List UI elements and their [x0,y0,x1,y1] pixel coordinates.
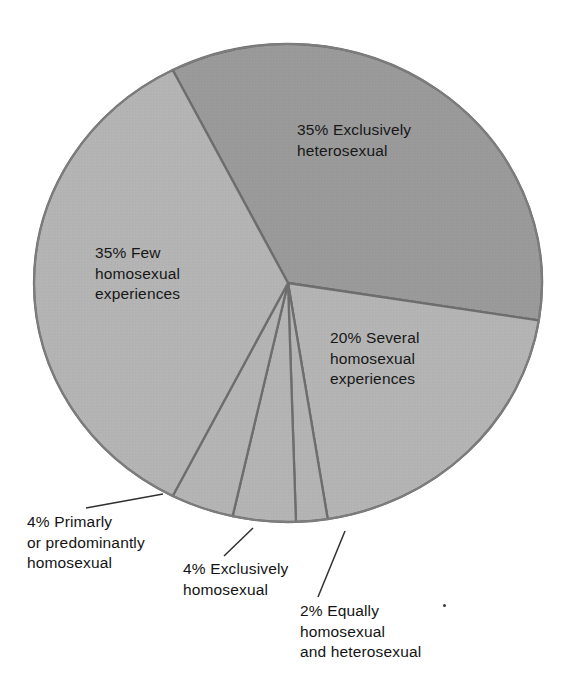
slice-label-exclusively-heterosexual: 35% Exclusively heterosexual [297,120,487,161]
pie-chart-figure: 35% Exclusively heterosexual 35% Few hom… [0,0,570,676]
scan-artifact-speck [443,604,446,607]
leader-line-primarly [86,494,163,508]
slice-label-exclusively-homosexual: 4% Exclusively homosexual [183,559,373,600]
slice-label-equally-homosexual-and-heterosexual: 2% Equally homosexual and heterosexual [300,601,530,663]
slice-label-several-homosexual-experiences: 20% Several homosexual experiences [330,328,510,390]
slice-label-few-homosexual-experiences: 35% Few homosexual experiences [95,243,275,305]
